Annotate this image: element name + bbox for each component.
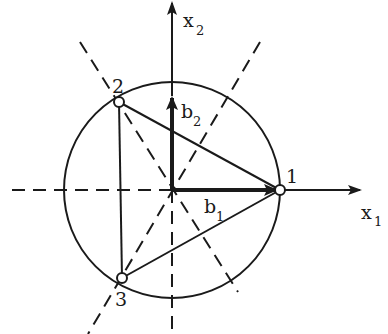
x2-axis-subscript: 2	[196, 23, 204, 38]
b2-subscript: 2	[193, 114, 201, 129]
point-1-label: 1	[286, 165, 298, 187]
x1-axis-label: x	[361, 201, 372, 223]
point-3-label: 3	[115, 288, 127, 310]
dashed-diagonal-through-2	[80, 42, 238, 292]
b1-subscript: 1	[216, 209, 224, 224]
triangle-edge-3-1	[122, 190, 280, 278]
x2-axis-label: x	[183, 9, 194, 31]
point-3-marker	[117, 273, 127, 283]
point-2-marker	[114, 97, 124, 107]
b2-label: b	[181, 100, 193, 122]
b1-label: b	[204, 195, 216, 217]
diagram-canvas: 1 2 3 x 2 x 1 b 2 b 1	[0, 0, 388, 334]
x1-axis-subscript: 1	[374, 214, 382, 229]
point-1-marker	[275, 185, 285, 195]
point-2-label: 2	[112, 75, 124, 97]
